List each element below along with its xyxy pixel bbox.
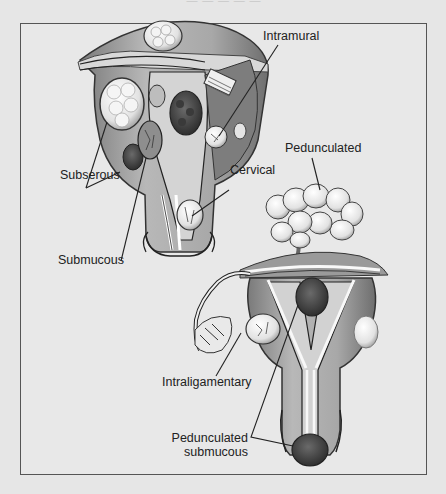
label-pedunculated-submucous: Pedunculated submucous	[170, 431, 248, 459]
label-subserous: Subserous	[60, 168, 120, 182]
fibroid-intraligamentary	[246, 314, 280, 344]
fibroid-cervical	[177, 200, 203, 230]
label-intramural: Intramural	[263, 29, 319, 43]
uterine-fibroid-illustration	[0, 0, 446, 494]
label-submucous: Submucous	[58, 253, 124, 267]
label-cervical: Cervical	[230, 163, 275, 177]
upper-uterus	[78, 21, 268, 256]
fibroid-pedunculated	[266, 184, 363, 262]
label-intraligamentary: Intraligamentary	[162, 375, 252, 389]
fibroid-dark-intramural	[170, 91, 202, 135]
ovary-fimbria	[195, 317, 232, 354]
label-pedunculated: Pedunculated	[285, 141, 361, 155]
label-pedunculated-submucous-line2: submucous	[184, 445, 248, 459]
fibroid-submucous	[138, 121, 162, 159]
label-pedunculated-submucous-line1: Pedunculated	[172, 431, 248, 445]
fibroid-pedunculated-submucous	[292, 434, 328, 466]
fibroid-fundal	[144, 21, 182, 51]
